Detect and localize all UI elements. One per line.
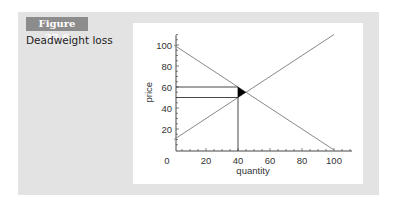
deadweight-loss-triangle	[238, 87, 246, 98]
chart-content: 02040608010020406080100quantityprice	[143, 35, 352, 177]
figure-title: Deadweight loss	[26, 34, 113, 46]
chart-svg: 02040608010020406080100quantityprice	[133, 23, 363, 184]
y-tick-label: 100	[156, 40, 172, 51]
chart-area: 02040608010020406080100quantityprice	[133, 23, 363, 184]
figure-panel: Figure 27.6 Deadweight loss 020406080100…	[18, 12, 379, 195]
y-tick-label: 40	[161, 103, 172, 114]
x-tick-label: 100	[326, 155, 342, 166]
y-tick-label: 20	[161, 124, 172, 135]
y-tick-label: 60	[161, 82, 172, 93]
x-tick-label: 20	[201, 155, 212, 166]
x-tick-label: 80	[297, 155, 308, 166]
y-axis-label: price	[143, 82, 154, 103]
figure-label: Figure 27.6	[26, 17, 88, 31]
x-tick-label: 0	[164, 155, 169, 166]
y-tick-label: 80	[161, 61, 172, 72]
x-axis-label: quantity	[236, 165, 270, 176]
